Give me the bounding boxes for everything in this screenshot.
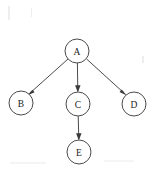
edge-c-to-e xyxy=(76,116,81,141)
node-e[interactable]: E xyxy=(67,140,91,164)
node-a[interactable]: A xyxy=(65,39,89,63)
node-a-label: A xyxy=(74,47,81,57)
edge-a-to-c xyxy=(75,63,80,93)
edge-a-to-b xyxy=(27,59,68,96)
graph-diagram: A B C D E xyxy=(0,0,151,174)
edge-a-to-b-line xyxy=(30,59,69,94)
edge-c-to-e-arrowhead xyxy=(76,133,81,140)
edge-a-to-c-arrowhead xyxy=(75,85,80,92)
node-c-label: C xyxy=(75,100,81,110)
edge-a-to-d-line xyxy=(87,59,125,94)
node-d[interactable]: D xyxy=(122,92,146,116)
node-d-label: D xyxy=(131,100,138,110)
nodes-layer: A B C D E xyxy=(9,39,146,164)
graph-canvas: A B C D E xyxy=(0,0,151,174)
node-e-label: E xyxy=(76,148,82,158)
node-b[interactable]: B xyxy=(9,91,33,115)
edge-a-to-d xyxy=(87,59,127,96)
node-c[interactable]: C xyxy=(66,92,90,116)
node-b-label: B xyxy=(18,99,24,109)
